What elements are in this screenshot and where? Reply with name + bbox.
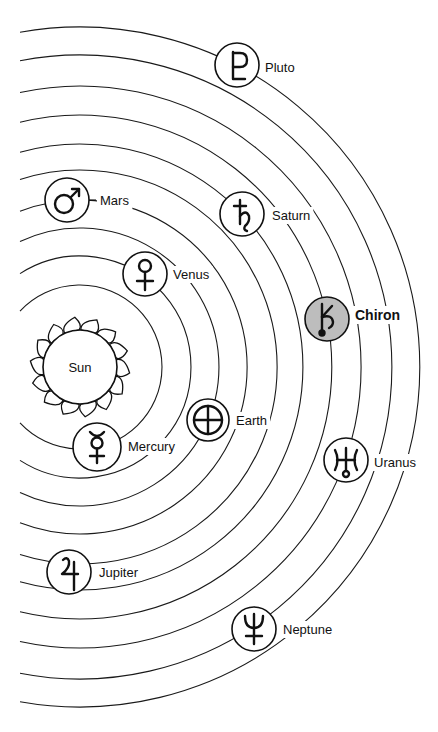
sun-label: Sun xyxy=(68,360,91,375)
solar-system-diagram: Sun Mercury Venus Earth xyxy=(0,0,438,732)
planet-label-mars: Mars xyxy=(100,193,129,208)
planet-label-venus: Venus xyxy=(173,267,210,282)
planet-mars: Mars xyxy=(45,178,129,222)
planet-label-jupiter: Jupiter xyxy=(99,565,139,580)
planet-label-neptune: Neptune xyxy=(283,622,332,637)
planet-label-pluto: Pluto xyxy=(265,60,295,75)
planet-saturn: Saturn xyxy=(220,192,310,236)
planet-jupiter: Jupiter xyxy=(47,550,139,594)
label-backgrounds xyxy=(96,59,419,638)
sun: Sun xyxy=(30,317,129,416)
planet-label-chiron: Chiron xyxy=(355,307,400,323)
planet-pluto: Pluto xyxy=(215,43,295,87)
planet-label-earth: Earth xyxy=(236,413,267,428)
planet-label-saturn: Saturn xyxy=(272,208,310,223)
planet-earth: Earth xyxy=(187,399,267,441)
planet-label-uranus: Uranus xyxy=(374,455,416,470)
earth-symbol-icon xyxy=(194,406,222,434)
planet-mercury: Mercury xyxy=(73,423,175,471)
planet-neptune: Neptune xyxy=(232,607,332,651)
planet-label-mercury: Mercury xyxy=(128,439,175,454)
